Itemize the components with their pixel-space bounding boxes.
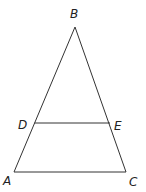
label-e: E <box>114 119 122 133</box>
label-d: D <box>18 118 27 132</box>
triangle-diagram: B D E A C <box>0 0 146 192</box>
side-ab <box>14 27 75 172</box>
label-c: C <box>129 175 138 189</box>
label-a: A <box>2 174 11 188</box>
label-b: B <box>70 7 78 21</box>
side-bc <box>75 27 126 172</box>
